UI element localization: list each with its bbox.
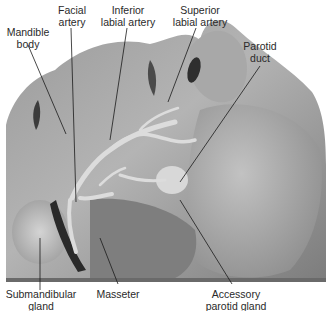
- label-facial-artery: Facial artery: [50, 4, 94, 28]
- anatomy-figure: Mandible body Facial artery Inferior lab…: [0, 0, 330, 311]
- label-accessory-parotid-gland: Accessory parotid gland: [196, 288, 276, 311]
- label-superior-labial-artery: Superior labial artery: [168, 4, 232, 28]
- label-masseter: Masseter: [90, 288, 146, 300]
- photo-bottom-edge: [6, 278, 326, 282]
- label-inferior-labial-artery: Inferior labial artery: [96, 4, 160, 28]
- label-submandibular-gland: Submandibular gland: [2, 288, 80, 311]
- label-parotid-duct: Parotid duct: [238, 40, 282, 64]
- label-mandible-body: Mandible body: [4, 26, 52, 50]
- cheek-region: [187, 104, 321, 277]
